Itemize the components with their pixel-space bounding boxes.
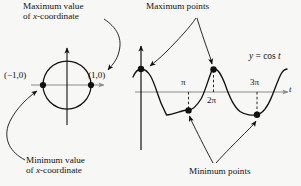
min-value-annotation: Minimum value of x-coordinate [26,155,85,176]
max-points-leader-right [197,18,212,64]
graph-max-point-zero [138,66,144,72]
graph-min-point-3pi [254,112,260,118]
circle-point-pos-one-label: (1,0) [88,70,105,80]
graph-max-point-2pi [210,66,216,72]
trig-figure: Maximum value of x-coordinate Minimum va… [0,0,301,186]
circle-point-neg-one [40,82,46,88]
tick-label-2pi: 2π [207,95,216,105]
max-value-line-1: Maximum value [23,1,83,11]
circle-point-pos-one [88,82,94,88]
unit-circle-diagram [31,48,104,125]
t-axis-label: t [289,84,292,94]
min-value-line-2-suffix: -coordinate [40,165,82,175]
max-points-leader-left [150,18,196,66]
maximum-points-annotation: Maximum points [146,1,209,11]
curve-equation-operator: = cos [253,51,278,61]
max-value-annotation: Maximum value of x-coordinate [23,1,83,22]
min-value-line-1: Minimum value [26,155,85,165]
max-value-line-2-suffix: -coordinate [37,11,79,21]
curve-equation-label: y = cos t [249,51,281,62]
minimum-points-annotation: Minimum points [189,166,251,176]
min-points-leader-left [190,116,214,163]
tick-label-3pi: 3π [250,77,259,87]
tick-label-pi: π [181,77,186,87]
min-value-leader-arrow [7,91,37,160]
min-points-leader-right [216,121,256,163]
graph-min-point-pi [185,107,191,113]
max-value-line-2-prefix: of [23,11,33,21]
min-value-line-2-prefix: of [26,165,36,175]
max-value-leader-arrow [104,19,120,70]
circle-point-neg-one-label: (−1,0) [4,70,26,80]
curve-equation-variable: t [278,51,281,61]
